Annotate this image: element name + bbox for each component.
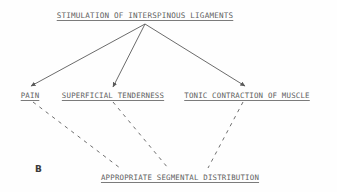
arrow-to-pain bbox=[31, 24, 145, 86]
node-stimulation-of-interspinous-ligaments: STIMULATION OF INTERSPINOUS LIGAMENTS bbox=[57, 11, 234, 20]
arrow-to-superficial-tenderness bbox=[113, 24, 145, 87]
node-appropriate-segmental-distribution: APPROPRIATE SEGMENTAL DISTRIBUTION bbox=[101, 173, 259, 182]
node-pain: PAIN bbox=[21, 91, 40, 100]
arrow-to-tonic-contraction bbox=[145, 24, 245, 86]
figure-panel: STIMULATION OF INTERSPINOUS LIGAMENTS PA… bbox=[0, 0, 337, 192]
dashed-link-from-pain bbox=[33, 102, 120, 168]
dashed-link-group bbox=[33, 102, 243, 168]
node-superficial-tenderness: SUPERFICIAL TENDERNESS bbox=[62, 91, 164, 100]
panel-letter-label: B bbox=[35, 164, 42, 174]
node-tonic-contraction-of-muscle: TONIC CONTRACTION OF MUSCLE bbox=[184, 91, 310, 100]
dashed-link-from-superficial-tenderness bbox=[113, 102, 168, 168]
solid-arrow-group bbox=[31, 24, 245, 87]
dashed-link-from-tonic-contraction bbox=[208, 102, 243, 168]
